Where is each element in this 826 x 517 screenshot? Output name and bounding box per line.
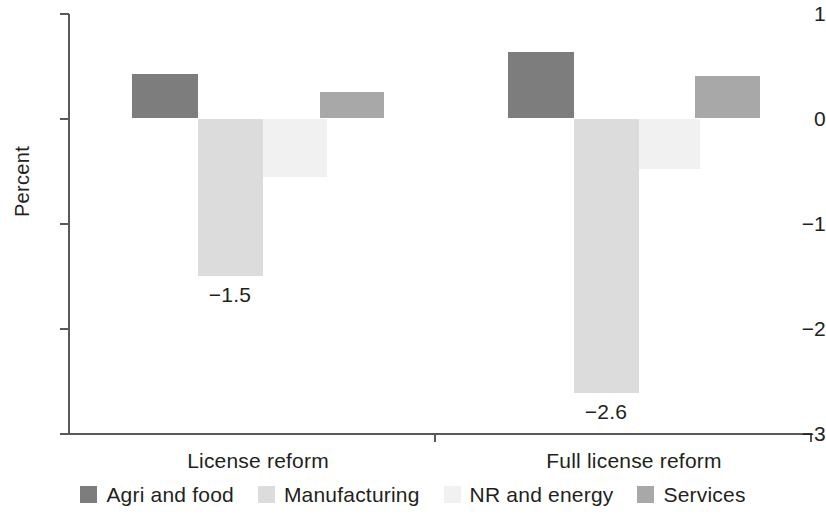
y-tick-label-minus-1: −1 (772, 213, 826, 234)
y-tick-mark-0 (60, 118, 69, 120)
legend-item-services[interactable]: Services (637, 484, 745, 505)
legend-item-agri-and-food[interactable]: Agri and food (80, 484, 234, 505)
legend-item-nr-and-energy[interactable]: NR and energy (444, 484, 614, 505)
legend-item-manufacturing[interactable]: Manufacturing (258, 484, 420, 505)
y-axis-title: Percent (11, 102, 34, 262)
x-category-label-full-license-reform: Full license reform (514, 450, 754, 472)
y-tick-mark-1 (60, 13, 69, 15)
bar-full-license-reform-nr-and-energy[interactable] (639, 119, 700, 169)
y-tick-mark-minus-3 (60, 433, 69, 435)
bar-value-label-full-license-reform-manufacturing: −2.6 (554, 401, 658, 422)
plot-area: 1 0 −1 −2 −3 Percent −1.5 License reform… (0, 0, 826, 460)
bar-license-reform-manufacturing[interactable] (198, 119, 263, 276)
x-group-separator-tick (434, 433, 436, 442)
chart-legend: Agri and food Manufacturing NR and energ… (0, 484, 826, 505)
legend-swatch-icon-nr-and-energy (444, 486, 461, 503)
y-tick-label-minus-2: −2 (772, 318, 826, 339)
legend-label-nr-and-energy: NR and energy (470, 484, 614, 505)
y-tick-label-minus-3: −3 (772, 423, 826, 444)
y-tick-label-1: 1 (772, 3, 826, 24)
bar-full-license-reform-agri-and-food[interactable] (508, 52, 574, 118)
bar-full-license-reform-manufacturing[interactable] (574, 119, 639, 393)
legend-swatch-icon-manufacturing (258, 486, 275, 503)
bar-full-license-reform-services[interactable] (695, 76, 760, 118)
x-axis-line (68, 433, 812, 435)
bar-license-reform-services[interactable] (320, 92, 384, 118)
y-tick-mark-minus-1 (60, 223, 69, 225)
y-tick-mark-minus-2 (60, 328, 69, 330)
legend-label-agri-and-food: Agri and food (106, 484, 234, 505)
x-category-label-license-reform: License reform (138, 450, 378, 472)
legend-label-manufacturing: Manufacturing (284, 484, 420, 505)
bar-chart-figure: 1 0 −1 −2 −3 Percent −1.5 License reform… (0, 0, 826, 517)
bar-license-reform-nr-and-energy[interactable] (263, 119, 327, 177)
legend-swatch-icon-agri-and-food (80, 486, 97, 503)
bar-value-label-license-reform-manufacturing: −1.5 (178, 284, 282, 305)
legend-swatch-icon-services (637, 486, 654, 503)
bar-license-reform-agri-and-food[interactable] (132, 74, 198, 118)
y-tick-label-0: 0 (772, 108, 826, 129)
legend-label-services: Services (663, 484, 745, 505)
